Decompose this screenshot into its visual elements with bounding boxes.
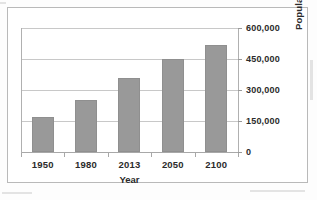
bar-2013[interactable] bbox=[118, 78, 140, 152]
y-tick-mark-450000 bbox=[238, 59, 242, 60]
x-axis-title: Year bbox=[21, 174, 238, 185]
y-tick-label-300000: 300,000 bbox=[246, 85, 280, 95]
x-tick-label-1980: 1980 bbox=[64, 159, 107, 170]
y-tick-label-600000: 600,000 bbox=[246, 23, 280, 33]
x-tick-mark-1 bbox=[64, 153, 65, 157]
x-tick-mark-4 bbox=[195, 153, 196, 157]
bars-layer bbox=[21, 28, 238, 152]
y-axis-title: Population (Thousands) bbox=[293, 0, 304, 30]
bar-1980[interactable] bbox=[75, 100, 97, 152]
scan-artifact-bottom-left bbox=[2, 192, 32, 194]
bar-2050[interactable] bbox=[162, 59, 184, 152]
y-tick-label-450000: 450,000 bbox=[246, 54, 280, 64]
x-tick-mark-2 bbox=[108, 153, 109, 157]
bar-slot-2013 bbox=[108, 28, 151, 152]
bar-1950[interactable] bbox=[32, 117, 54, 152]
y-tick-mark-300000 bbox=[238, 90, 242, 91]
bar-slot-1980 bbox=[64, 28, 107, 152]
bar-slot-2100 bbox=[195, 28, 238, 152]
x-tick-mark-3 bbox=[151, 153, 152, 157]
x-tick-mark-5 bbox=[238, 153, 239, 157]
x-tick-mark-0 bbox=[21, 153, 22, 157]
y-tick-label-0: 0 bbox=[246, 147, 251, 157]
bar-2100[interactable] bbox=[205, 45, 227, 152]
scan-artifact-bottom-right bbox=[250, 190, 305, 192]
bar-slot-2050 bbox=[151, 28, 194, 152]
x-tick-label-2050: 2050 bbox=[151, 159, 194, 170]
y-tick-label-150000: 150,000 bbox=[246, 116, 280, 126]
x-axis-tick-labels: 1950 1980 2013 2050 2100 bbox=[21, 159, 238, 170]
x-axis-baseline bbox=[21, 152, 238, 153]
scan-artifact-top-left bbox=[0, 2, 6, 4]
x-tick-label-1950: 1950 bbox=[21, 159, 64, 170]
y-tick-mark-150000 bbox=[238, 121, 242, 122]
x-tick-label-2100: 2100 bbox=[195, 159, 238, 170]
scan-artifact-right-edge bbox=[310, 60, 313, 100]
bar-slot-1950 bbox=[21, 28, 64, 152]
chart-frame: 600,000 450,000 300,000 150,000 0 Popula… bbox=[7, 7, 308, 183]
x-tick-label-2013: 2013 bbox=[108, 159, 151, 170]
y-tick-mark-600000 bbox=[238, 28, 242, 29]
